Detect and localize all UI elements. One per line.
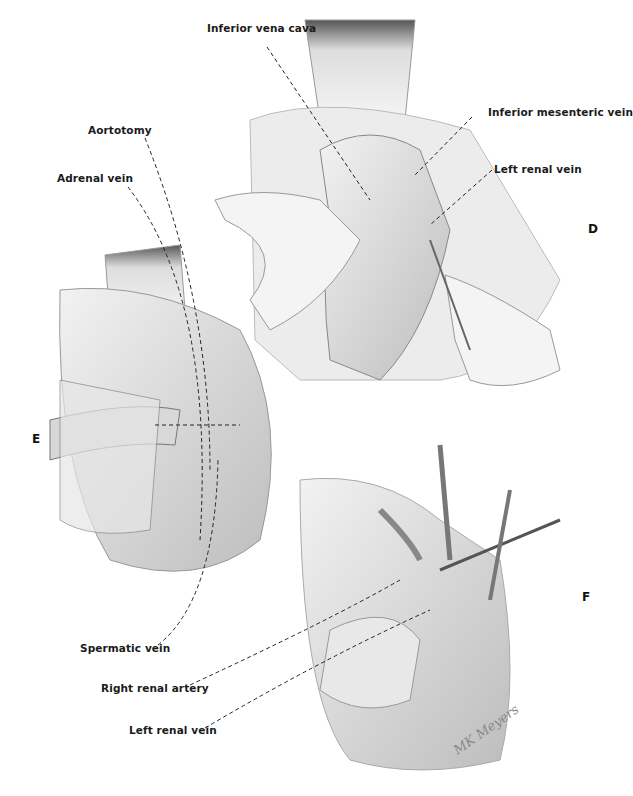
label-aortotomy: Aortotomy bbox=[88, 124, 152, 136]
label-adrenal-vein: Adrenal vein bbox=[57, 172, 133, 184]
label-right-renal-artery: Right renal artery bbox=[101, 682, 209, 694]
label-left-renal-vein-f: Left renal vein bbox=[129, 724, 217, 736]
label-spermatic-vein: Spermatic vein bbox=[80, 642, 170, 654]
panel-label-e: E bbox=[32, 432, 40, 446]
panel-e-illustration bbox=[50, 245, 271, 571]
panel-d-illustration bbox=[215, 20, 560, 386]
label-inferior-mesenteric-vein: Inferior mesenteric vein bbox=[488, 106, 633, 118]
panel-label-f: F bbox=[582, 590, 590, 604]
panel-f-illustration bbox=[300, 445, 560, 770]
label-left-renal-vein-d: Left renal vein bbox=[494, 163, 582, 175]
label-inferior-vena-cava: Inferior vena cava bbox=[207, 22, 316, 34]
panel-label-d: D bbox=[588, 222, 598, 236]
